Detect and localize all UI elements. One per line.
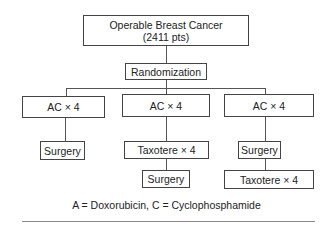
caption: A = Doxorubicin, C = Cyclophosphamide: [0, 199, 333, 211]
arm2-step3-box: Surgery: [142, 170, 190, 188]
arm3-step1-label: AC × 4: [253, 100, 285, 112]
root-count: (2411 pts): [143, 31, 190, 43]
arm1-step2-box: Surgery: [40, 141, 85, 160]
randomization-box: Randomization: [125, 63, 207, 80]
connector-arm3-step2-step3: [265, 158, 266, 170]
arm3-step2-box: Surgery: [238, 141, 281, 159]
connector-split-horizontal: [66, 88, 266, 89]
arm1-step2-label: Surgery: [44, 145, 81, 157]
arm3-step1-box: AC × 4: [224, 94, 314, 117]
arm3-step3-box: Taxotere × 4: [224, 170, 314, 189]
arm2-step3-label: Surgery: [148, 173, 185, 185]
arm3-step2-label: Surgery: [241, 144, 278, 156]
connector-arm1-step1-step2: [65, 118, 66, 141]
connector-root-randomization: [166, 46, 167, 63]
arm2-step2-label: Taxotere × 4: [137, 144, 195, 156]
connector-arm3-step1-step2: [265, 117, 266, 141]
connector-arm2-step1-step2: [166, 117, 167, 141]
arm2-step1-box: AC × 4: [122, 94, 210, 117]
arm2-step2-box: Taxotere × 4: [124, 141, 209, 159]
arm3-step3-label: Taxotere × 4: [240, 174, 298, 186]
arm1-step1-box: AC × 4: [22, 96, 105, 118]
connector-split-arm1: [66, 88, 67, 96]
connector-randomization-split: [166, 79, 167, 94]
root-box: Operable Breast Cancer (2411 pts): [83, 15, 249, 46]
bottom-divider: [22, 221, 315, 222]
connector-arm2-step2-step3: [166, 158, 167, 170]
randomization-label: Randomization: [131, 66, 201, 78]
arm1-step1-label: AC × 4: [47, 101, 79, 113]
root-title: Operable Breast Cancer: [109, 19, 222, 31]
arm2-step1-label: AC × 4: [150, 100, 182, 112]
